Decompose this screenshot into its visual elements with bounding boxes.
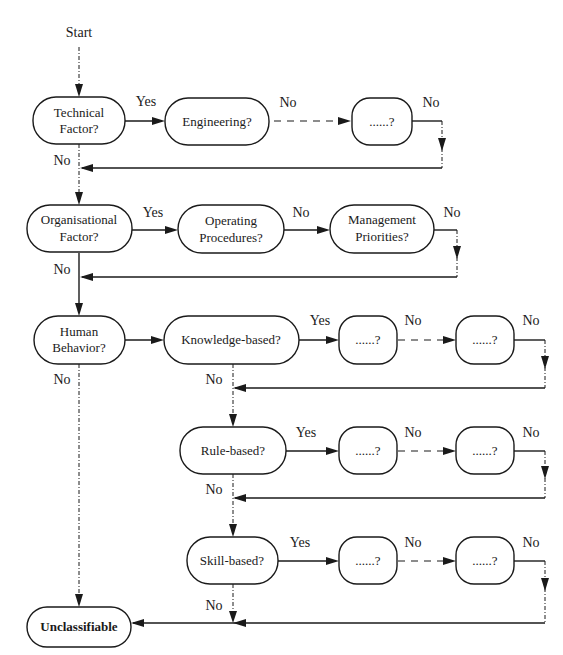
no-label: No <box>404 425 421 440</box>
svg-text:......?: ......? <box>472 443 498 458</box>
no-label: No <box>205 372 222 387</box>
arrow-right-icon <box>165 226 178 234</box>
svg-text:Behavior?: Behavior? <box>52 340 106 355</box>
node-rule-based: Rule-based? <box>180 427 286 474</box>
svg-text:Factor?: Factor? <box>60 121 99 136</box>
svg-text:Skill-based?: Skill-based? <box>200 553 264 568</box>
arrow-down-icon <box>75 192 83 205</box>
node-knowledge-more-a: ......? <box>339 316 397 364</box>
svg-text:......?: ......? <box>472 553 498 568</box>
arrow-down-icon <box>541 466 549 479</box>
svg-text:Human: Human <box>60 324 99 339</box>
no-label: No <box>279 95 296 110</box>
arrow-left-icon <box>131 619 144 627</box>
node-unclassifiable: Unclassifiable <box>27 607 131 647</box>
svg-text:Management: Management <box>348 212 416 227</box>
node-knowledge-more-b: ......? <box>456 316 514 364</box>
arrow-left-icon <box>233 619 246 627</box>
arrow-down-icon <box>229 611 237 623</box>
node-organisational-factor: Organisational Factor? <box>27 205 132 252</box>
no-label: No <box>522 425 539 440</box>
no-label: No <box>205 598 222 613</box>
arrow-down-icon <box>75 84 83 97</box>
no-label: No <box>404 535 421 550</box>
arrow-left-icon <box>233 494 246 502</box>
no-label: No <box>53 153 70 168</box>
arrow-down-icon <box>75 594 83 607</box>
arrow-down-icon <box>229 414 237 427</box>
arrow-down-icon <box>229 524 237 537</box>
arrow-down-icon <box>453 246 461 259</box>
arrow-down-icon <box>541 578 549 591</box>
node-skill-based: Skill-based? <box>187 537 278 584</box>
no-label: No <box>522 535 539 550</box>
arrow-left-icon <box>80 273 93 281</box>
no-label: No <box>292 205 309 220</box>
svg-text:Priorities?: Priorities? <box>355 229 409 244</box>
yes-label: Yes <box>136 94 156 109</box>
arrow-right-icon <box>443 557 456 565</box>
no-label: No <box>53 262 70 277</box>
node-skill-more-b: ......? <box>456 537 514 584</box>
no-label: No <box>522 313 539 328</box>
start-label: Start <box>66 25 93 40</box>
classification-flowchart: Start Technical Factor? Yes Engineering?… <box>0 0 563 655</box>
node-rule-more-b: ......? <box>456 427 514 474</box>
arrow-down-icon <box>541 356 549 369</box>
yes-label: Yes <box>143 205 163 220</box>
svg-text:Operating: Operating <box>205 213 257 228</box>
no-label: No <box>404 313 421 328</box>
node-knowledge-based: Knowledge-based? <box>164 316 299 364</box>
yes-label: Yes <box>310 313 330 328</box>
node-engineering: Engineering? <box>165 98 269 145</box>
no-label: No <box>205 482 222 497</box>
arrow-right-icon <box>326 336 339 344</box>
arrow-down-icon <box>75 303 83 316</box>
arrow-right-icon <box>326 447 339 455</box>
arrow-right-icon <box>338 117 351 125</box>
svg-text:......?: ......? <box>472 332 498 347</box>
svg-text:Procedures?: Procedures? <box>199 230 263 245</box>
svg-text:Organisational: Organisational <box>41 212 118 227</box>
yes-label: Yes <box>290 535 310 550</box>
node-human-behavior: Human Behavior? <box>34 316 125 364</box>
arrow-left-icon <box>80 164 93 172</box>
node-operating-procedures: Operating Procedures? <box>178 205 284 253</box>
node-technical-more: ......? <box>352 98 412 145</box>
node-skill-more-a: ......? <box>339 537 397 584</box>
node-management-priorities: Management Priorities? <box>330 205 434 253</box>
arrow-right-icon <box>326 557 339 565</box>
no-label: No <box>53 372 70 387</box>
yes-label: Yes <box>296 425 316 440</box>
arrow-right-icon <box>443 336 456 344</box>
arrow-down-icon <box>438 138 446 151</box>
no-label: No <box>422 95 439 110</box>
svg-text:Factor?: Factor? <box>60 229 99 244</box>
svg-text:Technical: Technical <box>54 105 105 120</box>
arrow-right-icon <box>152 117 165 125</box>
svg-text:Knowledge-based?: Knowledge-based? <box>181 332 281 347</box>
node-technical-factor: Technical Factor? <box>33 97 125 144</box>
arrow-left-icon <box>233 384 246 392</box>
svg-text:......?: ......? <box>369 114 395 129</box>
svg-text:Engineering?: Engineering? <box>182 114 252 129</box>
arrow-right-icon <box>151 336 164 344</box>
arrow-right-icon <box>317 226 330 234</box>
node-rule-more-a: ......? <box>339 427 397 474</box>
arrow-right-icon <box>443 447 456 455</box>
svg-text:Rule-based?: Rule-based? <box>201 443 265 458</box>
svg-text:......?: ......? <box>355 443 381 458</box>
svg-text:Unclassifiable: Unclassifiable <box>40 619 118 634</box>
no-label: No <box>443 205 460 220</box>
svg-text:......?: ......? <box>355 332 381 347</box>
svg-text:......?: ......? <box>355 553 381 568</box>
